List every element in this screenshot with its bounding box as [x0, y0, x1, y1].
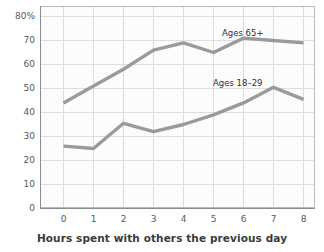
x-tick-label-0: 0 [51, 215, 76, 224]
y-tick-label-40: 40 [2, 108, 35, 117]
x-tick-label-5: 5 [201, 215, 226, 224]
series-annotation-ages-65-plus: Ages 65+ [222, 29, 264, 38]
y-tick-label-20: 20 [2, 156, 35, 165]
y-tick-label-10: 10 [2, 180, 35, 189]
y-tick-label-30: 30 [2, 132, 35, 141]
x-tick-label-6: 6 [231, 215, 256, 224]
x-tick-label-1: 1 [81, 215, 106, 224]
y-tick-label-70: 70 [2, 36, 35, 45]
y-tick-label-50: 50 [2, 84, 35, 93]
y-tick-label-60: 60 [2, 60, 35, 69]
line-chart: 80% 70 60 50 40 30 20 10 0 0 1 2 3 4 5 6… [0, 0, 324, 252]
series-annotation-ages-18-29: Ages 18–29 [213, 79, 262, 88]
x-tick-label-2: 2 [111, 215, 136, 224]
y-tick-label-80: 80% [2, 12, 35, 21]
y-tick-label-0: 0 [2, 204, 35, 213]
x-tick-label-7: 7 [261, 215, 286, 224]
x-tick-label-3: 3 [141, 215, 166, 224]
x-axis-title: Hours spent with others the previous day [0, 232, 324, 244]
x-tick-label-4: 4 [171, 215, 196, 224]
x-tick-label-8: 8 [291, 215, 316, 224]
